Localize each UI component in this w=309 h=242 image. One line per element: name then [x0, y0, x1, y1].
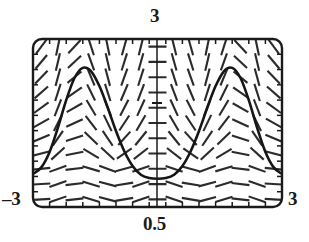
field-dash [32, 199, 50, 200]
y-axis-min-label: 0.5 [0, 214, 309, 233]
slope-field-plot [0, 0, 309, 242]
y-axis-max-label: 3 [0, 6, 309, 25]
field-dash [265, 199, 283, 200]
slope-field-figure: 3 0.5 –3 3 [0, 0, 309, 242]
x-axis-min-label: –3 [2, 189, 20, 208]
field-dash [265, 184, 283, 185]
x-axis-max-label: 3 [288, 189, 297, 208]
field-dash [32, 184, 50, 185]
